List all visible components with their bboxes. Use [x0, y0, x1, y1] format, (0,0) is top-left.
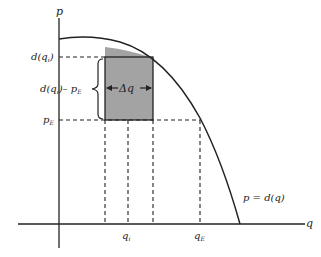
d-qi-label: d(qi): [31, 51, 54, 63]
qi-label: qi: [122, 230, 130, 242]
brace: [92, 59, 103, 119]
x-axis-label: q: [306, 217, 313, 230]
demand-curve-diagram: Δq p q d(qi) d(qi)– pE pE qi qE p = d(q): [0, 0, 321, 257]
y-axis-label: p: [56, 5, 63, 18]
pE-label: pE: [43, 114, 54, 126]
difference-label: d(qi)– pE: [40, 83, 82, 95]
delta-q-label: Δq: [118, 82, 134, 95]
curve-label: p = d(q): [243, 192, 285, 203]
qE-label: qE: [194, 230, 205, 242]
